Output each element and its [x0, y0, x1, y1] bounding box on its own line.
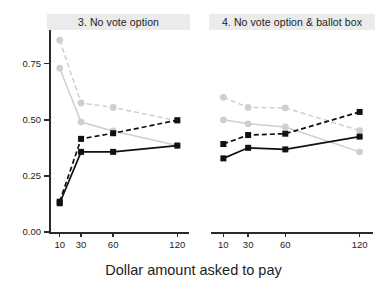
- data-point-light-solid: [78, 119, 85, 126]
- data-point-light-solid: [282, 124, 289, 131]
- series-line-light-solid: [60, 68, 178, 145]
- data-point-light-dashed: [356, 127, 363, 134]
- data-point-dark-solid: [174, 143, 180, 149]
- data-point-light-dashed: [282, 104, 289, 111]
- data-point-dark-solid: [357, 134, 363, 140]
- plot-canvas: [0, 0, 387, 292]
- data-point-dark-dashed: [282, 131, 288, 137]
- series-line-light-dashed: [223, 97, 359, 130]
- data-point-dark-solid: [78, 149, 84, 155]
- data-point-dark-solid: [110, 149, 116, 155]
- x-axis-title: Dollar amount asked to pay: [0, 262, 387, 278]
- series-line-dark-solid: [60, 146, 178, 204]
- data-point-dark-solid: [220, 155, 226, 161]
- chart-figure: 3. No vote option 4. No vote option & ba…: [0, 0, 387, 292]
- data-point-light-dashed: [56, 37, 63, 44]
- data-point-light-solid: [56, 65, 63, 72]
- data-point-dark-solid: [57, 200, 63, 206]
- data-point-dark-dashed: [110, 130, 116, 136]
- series-line-dark-dashed: [223, 112, 359, 144]
- data-point-light-dashed: [78, 100, 85, 107]
- data-point-dark-dashed: [245, 132, 251, 138]
- data-point-dark-dashed: [78, 136, 84, 142]
- data-point-dark-dashed: [174, 117, 180, 123]
- data-point-dark-solid: [245, 145, 251, 151]
- data-point-light-solid: [245, 120, 252, 127]
- data-point-light-dashed: [245, 104, 252, 111]
- data-point-light-solid: [356, 148, 363, 155]
- data-point-dark-solid: [282, 146, 288, 152]
- data-point-dark-dashed: [220, 141, 226, 147]
- data-point-light-solid: [220, 116, 227, 123]
- series-line-light-dashed: [60, 40, 178, 121]
- series-line-dark-solid: [223, 137, 359, 159]
- data-point-dark-dashed: [357, 109, 363, 115]
- data-point-light-dashed: [220, 94, 227, 101]
- data-point-light-dashed: [110, 104, 117, 111]
